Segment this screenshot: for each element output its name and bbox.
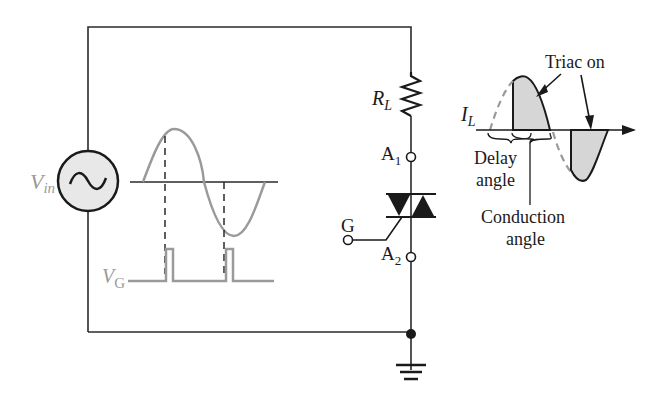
- anode2-terminal: [407, 253, 416, 262]
- conduction-angle-label-line1: Conduction: [481, 207, 565, 227]
- gate-label: G: [341, 215, 355, 236]
- load-current-label: IL: [460, 103, 476, 129]
- conduction-angle-label-line2: angle: [506, 229, 545, 249]
- gate-pulse-waveform: [128, 249, 274, 281]
- junction-dot: [406, 329, 416, 339]
- load-resistor-label: RL: [371, 87, 392, 113]
- delay-angle-label-line1: Delay: [474, 148, 517, 168]
- gate-terminal: [344, 236, 353, 245]
- source-label: Vin: [30, 169, 55, 196]
- input-waveform: [130, 129, 278, 274]
- resistor-icon: [402, 72, 420, 116]
- anode1-terminal: [407, 153, 416, 162]
- triac-circuit-diagram: Vin VG RL A1 G A2 IL Triac on Delay angl…: [0, 0, 672, 407]
- gate-signal-label: VG: [102, 265, 125, 291]
- delay-angle-label-line2: angle: [476, 170, 515, 190]
- anode2-label: A2: [381, 243, 401, 268]
- circuit-wires: [88, 27, 411, 370]
- triac-icon: [352, 194, 436, 240]
- triac-on-label: Triac on: [545, 52, 605, 72]
- ac-source-icon: [58, 151, 118, 211]
- anode1-label: A1: [381, 143, 401, 168]
